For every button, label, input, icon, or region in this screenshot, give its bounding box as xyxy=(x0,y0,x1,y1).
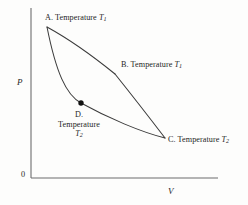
label-point-a-text: A. Temperature xyxy=(45,13,99,22)
label-point-b-subscript: 1 xyxy=(179,63,182,69)
curve-b-to-c xyxy=(115,74,165,138)
label-point-c-subscript: 2 xyxy=(226,138,229,144)
label-point-c-text: C. Temperature xyxy=(168,135,221,144)
label-point-b: B. Temperature T1 xyxy=(121,60,182,70)
y-axis-label: P xyxy=(17,77,23,87)
pv-diagram-figure: A. Temperature T1 B. Temperature T1 C. T… xyxy=(0,0,248,205)
x-axis-label: V xyxy=(168,186,174,196)
label-point-d-subscript: 2 xyxy=(80,132,83,138)
label-point-d: D. Temperature T2 xyxy=(48,110,110,140)
label-point-c: C. Temperature T2 xyxy=(168,135,229,145)
label-point-a: A. Temperature T1 xyxy=(45,13,107,23)
label-point-d-line1: D. xyxy=(75,110,83,119)
point-d-marker xyxy=(78,100,83,105)
label-point-d-line2: Temperature xyxy=(58,120,100,129)
label-point-a-subscript: 1 xyxy=(104,16,107,22)
plot-canvas xyxy=(0,0,248,205)
label-point-b-text: B. Temperature xyxy=(121,60,174,69)
origin-label: 0 xyxy=(21,170,25,179)
